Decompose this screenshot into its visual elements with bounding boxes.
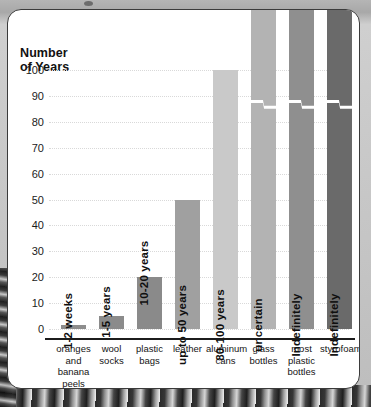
bar[interactable]: Indefinitely	[289, 10, 314, 329]
x-axis-category-labels: orangesandbananapeelswoolsocksplasticbag…	[49, 343, 351, 389]
x-axis-category-label-line: most	[282, 343, 321, 355]
y-axis-tick-label: 40	[10, 219, 44, 231]
bar-data-label: 10-20 years	[138, 241, 150, 306]
x-axis-category-label-line: bottles	[244, 355, 283, 367]
x-axis-category-label: leather	[168, 343, 207, 355]
x-axis-category-label: mostplasticbottles	[282, 343, 321, 378]
x-axis-category-label-line: wool	[92, 343, 131, 355]
y-axis-tick-label: 90	[10, 90, 44, 102]
bar[interactable]: 1-5 years	[99, 316, 124, 329]
x-axis-category-label: glassbottles	[244, 343, 283, 366]
plot-area: 1-2 weeks1-5 years10-20 yearsup to 50 ye…	[49, 70, 349, 329]
y-axis-tick-label: 10	[10, 297, 44, 309]
bar[interactable]: 80-100 years	[213, 70, 238, 329]
x-axis-category-label: aluminumcans	[206, 343, 245, 366]
bar[interactable]: up to 50 years	[175, 200, 200, 330]
axis-break-mark	[325, 100, 354, 109]
x-axis-category-label: styrofoam	[320, 343, 359, 355]
x-axis-category-label-line: and	[54, 355, 93, 367]
x-axis-category-label-line: plastic	[282, 355, 321, 367]
backdrop-speck	[84, 1, 93, 6]
bar[interactable]: uncertain	[251, 10, 276, 329]
y-axis-tick-label: 80	[10, 116, 44, 128]
y-axis-tick-label: 0	[10, 323, 44, 335]
x-axis-category-label-line: banana	[54, 366, 93, 378]
x-axis-category-label: orangesandbananapeels	[54, 343, 93, 389]
x-axis-category-label-line: peels	[54, 378, 93, 389]
x-axis-category-label-line: glass	[244, 343, 283, 355]
y-axis-tick-labels: 0102030405060708090100	[8, 70, 44, 329]
bar-data-label: 1-5 years	[100, 286, 112, 338]
bar-data-label: 1-2 weeks	[62, 293, 74, 349]
bar[interactable]: 10-20 years	[137, 277, 162, 329]
y-axis-tick-label: 70	[10, 142, 44, 154]
chart-panel: Number of Years 0102030405060708090100 1…	[7, 9, 360, 389]
y-axis-tick-label: 50	[10, 194, 44, 206]
x-axis-category-label-line: socks	[92, 355, 131, 367]
x-axis-category-label: plasticbags	[130, 343, 169, 366]
x-axis-category-label-line: cans	[206, 355, 245, 367]
x-axis-category-label-line: oranges	[54, 343, 93, 355]
y-axis-tick-label: 100	[10, 64, 44, 76]
axis-break-mark	[287, 100, 316, 109]
x-axis-line	[45, 338, 355, 340]
y-axis-tick-label: 60	[10, 168, 44, 180]
x-axis-category-label-line: aluminum	[206, 343, 245, 355]
y-axis-title-line1: Number	[20, 46, 69, 60]
x-axis-category-label-line: bags	[130, 355, 169, 367]
x-axis-category-label-line: bottles	[282, 366, 321, 378]
bar[interactable]: Indefinitely	[327, 10, 352, 329]
axis-break-mark	[249, 100, 278, 109]
y-axis-tick-label: 30	[10, 245, 44, 257]
x-axis-category-label-line: plastic	[130, 343, 169, 355]
screenshot-root: Number of Years 0102030405060708090100 1…	[0, 0, 371, 407]
gridline	[49, 329, 349, 330]
x-axis-category-label-line: styrofoam	[320, 343, 359, 355]
y-axis-tick-label: 20	[10, 271, 44, 283]
x-axis-category-label: woolsocks	[92, 343, 131, 366]
bar[interactable]: 1-2 weeks	[61, 325, 86, 329]
x-axis-category-label-line: leather	[168, 343, 207, 355]
